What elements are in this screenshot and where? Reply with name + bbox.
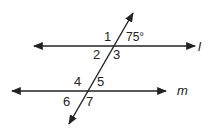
line-m-label: m bbox=[177, 83, 188, 98]
angle-4-label: 4 bbox=[74, 74, 81, 89]
angle-2-label: 2 bbox=[93, 47, 100, 62]
parallel-lines-diagram: l m 1 75° 2 3 4 5 6 7 bbox=[0, 0, 209, 132]
transversal bbox=[69, 13, 133, 124]
angle-75-label: 75° bbox=[126, 30, 144, 44]
angle-5-label: 5 bbox=[97, 74, 104, 89]
angle-7-label: 7 bbox=[86, 94, 93, 109]
angle-1-label: 1 bbox=[104, 29, 111, 44]
angle-3-label: 3 bbox=[113, 47, 120, 62]
angle-6-label: 6 bbox=[63, 94, 70, 109]
line-l-label: l bbox=[198, 39, 202, 54]
